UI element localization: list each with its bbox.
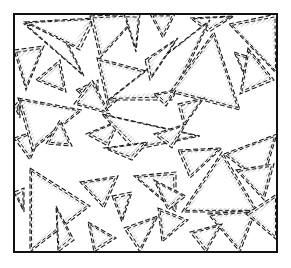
triangle-pattern-illustration	[0, 0, 291, 268]
